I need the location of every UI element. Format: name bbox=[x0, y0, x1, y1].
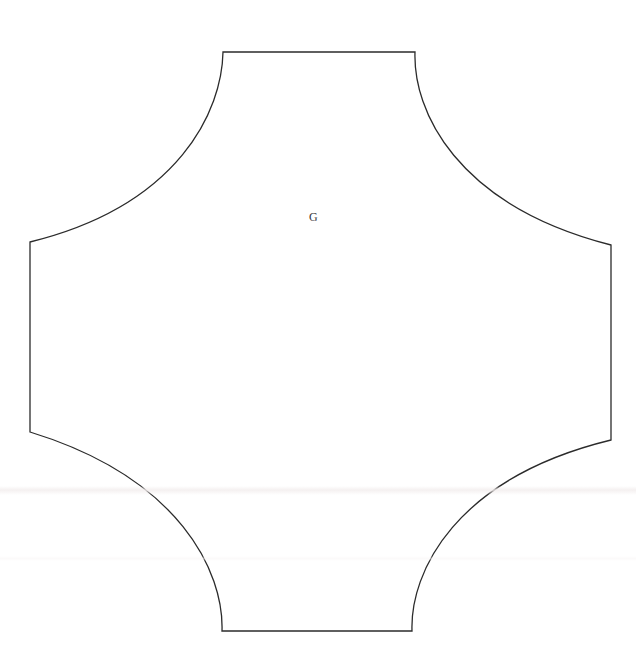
figure-center-label-g: G bbox=[309, 211, 318, 223]
figure-background bbox=[0, 0, 636, 668]
geometric-figure-canvas bbox=[0, 0, 636, 668]
